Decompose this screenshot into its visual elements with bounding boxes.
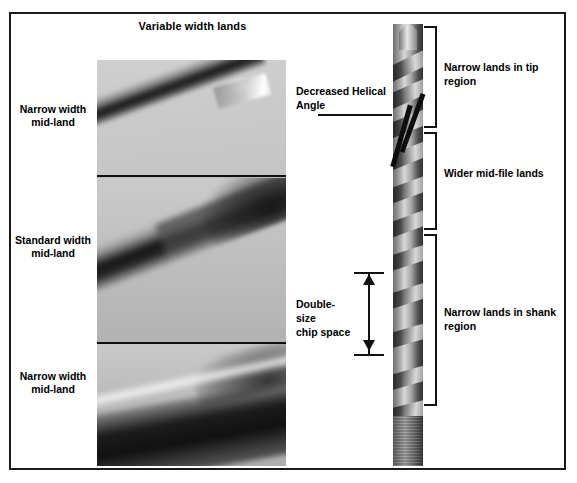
flute-band (393, 208, 423, 240)
micrograph-label-1-line-1: Narrow width (12, 103, 94, 116)
arrowhead-down-icon (363, 340, 375, 351)
panel-divider-1 (97, 175, 286, 177)
callout-helical-angle-line-1: Decreased Helical (296, 84, 404, 98)
flute-band (393, 321, 423, 350)
flute-band (393, 174, 423, 206)
flute-band (393, 242, 423, 272)
callout-decreased-helical-angle: Decreased Helical Angle (296, 84, 404, 112)
micrograph-image-3 (97, 344, 286, 466)
flute-band (393, 363, 423, 392)
micrograph-panel-standard-width-mid-land (97, 178, 286, 342)
figure-root: Variable width lands (0, 0, 577, 483)
callout-chip-space-line-1: Double-size (296, 297, 354, 325)
micrograph-label-1: Narrow width mid-land (12, 103, 94, 129)
callout-helical-angle-line-2: Angle (296, 98, 404, 112)
micrograph-label-2-line-2: mid-land (12, 247, 94, 260)
micrograph-label-3-line-2: mid-land (12, 383, 94, 396)
figure-title: Variable width lands (95, 20, 290, 32)
micrograph-label-1-line-2: mid-land (12, 116, 94, 129)
micrograph-image-1 (97, 60, 286, 176)
callout-double-size-chip-space: Double-size chip space (296, 297, 354, 339)
micrograph-label-3-line-1: Narrow width (12, 370, 94, 383)
callout-leader-line-helical-angle (318, 114, 392, 116)
micrograph-label-3: Narrow width mid-land (12, 370, 94, 396)
bracket-shank-region (424, 234, 437, 406)
micrograph-label-2: Standard width mid-land (12, 234, 94, 260)
bracket-label-mid-file-region: Wider mid-file lands (444, 166, 572, 180)
micrograph-column (97, 60, 286, 466)
dimension-arrow-chip-space (352, 270, 386, 358)
callout-chip-space-line-2: chip space (296, 325, 354, 339)
flute-band (393, 280, 423, 310)
flute-band (393, 47, 423, 83)
dimension-tick-bottom (354, 354, 384, 356)
arrowhead-up-icon (363, 274, 375, 285)
bracket-label-shank-region: Narrow lands in shank region (444, 305, 572, 333)
micrograph-panel-narrow-width-mid-land (97, 344, 286, 466)
micrograph-label-2-line-1: Standard width (12, 234, 94, 247)
bracket-tip-region (424, 26, 437, 128)
bracket-label-tip-region: Narrow lands in tip region (444, 60, 572, 88)
drill-bit-tip (399, 24, 417, 50)
micrograph-image-2 (97, 178, 286, 342)
drill-bit-shank (393, 416, 423, 466)
micrograph-panel-narrow-width-mid-land-tip (97, 60, 286, 176)
bracket-mid-file-region (424, 132, 437, 230)
